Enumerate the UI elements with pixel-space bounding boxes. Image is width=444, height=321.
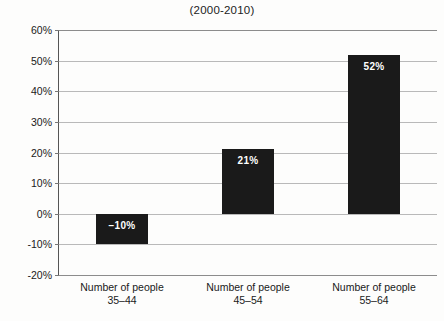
bar-value-label: 21%	[222, 155, 274, 166]
category-label-line1: Number of people	[332, 281, 415, 293]
bar[interactable]: −10%	[96, 214, 148, 245]
x-axis-category-label: Number of people35–44	[59, 281, 185, 307]
x-axis-category-label: Number of people55–64	[311, 281, 437, 307]
y-axis-tick-label: 30%	[0, 116, 52, 128]
y-axis-tick	[55, 122, 59, 123]
gridline	[59, 30, 437, 31]
category-label-line1: Number of people	[206, 281, 289, 293]
y-axis-tick-label: 20%	[0, 147, 52, 159]
category-label-range: 45–54	[185, 294, 311, 307]
y-axis-tick-label: 0%	[0, 208, 52, 220]
y-axis-tick-label: -10%	[0, 238, 52, 250]
y-axis-tick	[55, 153, 59, 154]
y-axis-tick-label: -20%	[0, 269, 52, 281]
y-axis-tick	[55, 183, 59, 184]
gridline	[59, 244, 437, 245]
bar[interactable]: 21%	[222, 149, 274, 213]
x-axis-category-label: Number of people45–54	[185, 281, 311, 307]
y-axis-tick-label: 60%	[0, 24, 52, 36]
y-axis-tick	[55, 61, 59, 62]
y-axis-tick-label: 50%	[0, 55, 52, 67]
x-axis-category-labels: Number of people35–44Number of people45–…	[59, 281, 437, 317]
category-label-range: 55–64	[311, 294, 437, 307]
bar[interactable]: 52%	[348, 55, 400, 214]
bar-chart: (2000-2010) 60%50%40%30%20%10%0%-10%-20%…	[0, 0, 444, 321]
y-axis-tick	[55, 30, 59, 31]
category-label-range: 35–44	[59, 294, 185, 307]
chart-title: (2000-2010)	[0, 4, 444, 16]
y-axis-tick-labels: 60%50%40%30%20%10%0%-10%-20%	[0, 30, 54, 275]
y-axis-tick	[55, 214, 59, 215]
category-label-line1: Number of people	[80, 281, 163, 293]
bar-value-label: −10%	[96, 220, 148, 231]
plot-area: −10%21%52%	[59, 30, 437, 275]
y-axis-tick	[55, 275, 59, 276]
y-axis-tick	[55, 244, 59, 245]
gridline	[59, 275, 437, 276]
y-axis-tick-label: 40%	[0, 85, 52, 97]
y-axis-tick-label: 10%	[0, 177, 52, 189]
y-axis-tick	[55, 91, 59, 92]
bar-value-label: 52%	[348, 61, 400, 72]
